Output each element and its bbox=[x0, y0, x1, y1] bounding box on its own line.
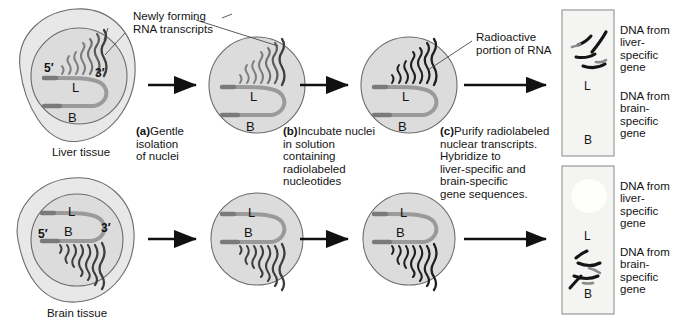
brain-labeled-nucleus bbox=[363, 193, 455, 290]
brain-cell-gene-b-letter: B bbox=[64, 226, 73, 239]
step-a-lead: (a) bbox=[136, 125, 150, 137]
liver-tissue-cell bbox=[20, 9, 136, 142]
brain-blot-spot-b: B bbox=[584, 288, 592, 301]
brain-nucleus-2 bbox=[211, 193, 303, 285]
brain-blot-label-top: DNA from liver- specific gene bbox=[620, 180, 684, 230]
nucleus2-gene-l-letter: L bbox=[250, 91, 257, 104]
liver-labeled-nucleus bbox=[361, 37, 472, 133]
brain-cell-3prime: 3′ bbox=[101, 222, 111, 235]
callout-radioactive-rna: Radioactive portion of RNA bbox=[476, 31, 551, 56]
figure-canvas: Newly forming RNA transcripts Radioactiv… bbox=[0, 0, 685, 327]
step-c-text: Purify radiolabeled nuclear transcripts.… bbox=[440, 125, 549, 200]
brain-cell-5prime: 5′ bbox=[38, 228, 48, 241]
liver-cell-gene-l-letter: L bbox=[72, 82, 79, 95]
brain-nucleus3-gene-b-letter: B bbox=[396, 227, 405, 240]
step-caption-c: (c)Purify radiolabeled nuclear transcrip… bbox=[440, 125, 565, 201]
brain-blot-label-bottom: DNA from brain- specific gene bbox=[620, 246, 684, 296]
liver-cell-gene-b-letter: B bbox=[68, 112, 77, 125]
step-caption-b: (b)Incubate nuclei in solution containin… bbox=[283, 125, 393, 188]
brain-blot-blank-spot bbox=[571, 179, 607, 213]
liver-tissue-label: Liver tissue bbox=[26, 146, 136, 158]
brain-nucleus-3 bbox=[363, 193, 455, 285]
nucleus3-gene-l-letter: L bbox=[402, 91, 409, 104]
step-b-text: Incubate nuclei in solution containing r… bbox=[283, 125, 375, 187]
leader-line-label-tail bbox=[222, 14, 232, 18]
step-c-lead: (c) bbox=[440, 125, 454, 137]
brain-tissue-cell bbox=[17, 178, 134, 302]
liver-blot-label-bottom: DNA from brain- specific gene bbox=[620, 90, 684, 140]
liver-isolated-nucleus bbox=[196, 20, 305, 133]
callout-newly-forming-rna: Newly forming RNA transcripts bbox=[133, 10, 213, 35]
brain-nucleus3-gene-l-letter: L bbox=[400, 207, 407, 220]
liver-blot-label-top: DNA from liver- specific gene bbox=[620, 24, 684, 74]
step-b-lead: (b) bbox=[283, 125, 298, 137]
liver-blot-spot-b: B bbox=[584, 134, 592, 147]
brain-nucleus2-gene-l-letter: L bbox=[248, 207, 255, 220]
liver-cell-3prime: 3′ bbox=[95, 67, 105, 80]
liver-cell-5prime: 5′ bbox=[44, 62, 54, 75]
step-caption-a: (a)Gentle isolation of nuclei bbox=[136, 125, 206, 163]
brain-isolated-nucleus bbox=[211, 193, 303, 290]
brain-blot-spot-l: L bbox=[584, 230, 591, 243]
nucleus3-gene-b-letter: B bbox=[398, 121, 407, 134]
nucleus2-gene-b-letter: B bbox=[246, 121, 255, 134]
liver-blot-spot-l: L bbox=[584, 80, 591, 93]
brain-cell-gene-l-letter: L bbox=[68, 206, 75, 219]
brain-tissue-label: Brain tissue bbox=[22, 307, 132, 319]
brain-nucleus2-gene-b-letter: B bbox=[244, 227, 253, 240]
